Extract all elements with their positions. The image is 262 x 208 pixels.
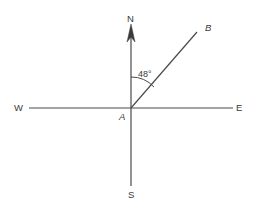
label-vertex-a: A [119,112,125,122]
label-north: N [127,14,134,24]
label-west: W [14,103,23,113]
geometry-figure: N S W E A B 48° [0,0,262,208]
label-east: E [236,103,243,113]
label-angle-measure: 48° [138,70,152,79]
label-point-b: B [205,23,211,33]
figure-canvas [0,0,262,208]
label-south: S [128,190,135,200]
